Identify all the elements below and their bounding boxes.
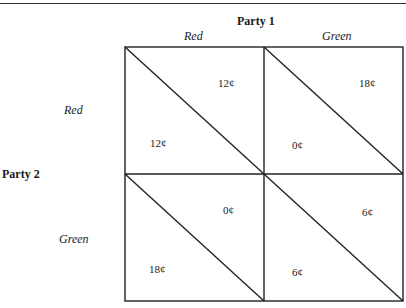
- payoff-rg-party2: 0¢: [292, 139, 303, 151]
- payoff-grid: [0, 0, 406, 308]
- payoff-gg-party1: 6¢: [362, 206, 373, 218]
- payoff-gr-party2: 18¢: [149, 263, 166, 275]
- payoff-gr-party1: 0¢: [223, 204, 234, 216]
- payoff-rr-party2: 12¢: [150, 137, 167, 149]
- payoff-rr-party1: 12¢: [218, 77, 235, 89]
- diagonal-green-green: [264, 174, 403, 301]
- diagonal-red-red: [125, 47, 264, 174]
- payoff-gg-party2: 6¢: [292, 266, 303, 278]
- diagonal-red-green: [264, 47, 403, 174]
- payoff-rg-party1: 18¢: [359, 77, 376, 89]
- diagonal-green-red: [125, 174, 264, 301]
